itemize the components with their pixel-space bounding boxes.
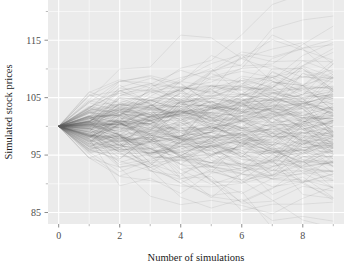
chart-figure: 8595105115 02468 Number of simulations S… [0,0,352,269]
y-axis-title: Simulated stock prices [3,64,14,159]
simulated-stock-prices-chart: 8595105115 02468 Number of simulations S… [0,0,352,269]
x-tick-label: 4 [178,230,183,241]
x-tick-label: 6 [239,230,244,241]
x-axis-title: Number of simulations [148,252,245,263]
y-tick-label: 115 [26,35,41,46]
x-tick-label: 8 [300,230,305,241]
x-tick-label: 0 [56,230,61,241]
y-tick-label: 105 [26,92,41,103]
x-tick-label: 2 [117,230,122,241]
y-tick-label: 85 [31,207,41,218]
y-tick-label: 95 [31,149,41,160]
